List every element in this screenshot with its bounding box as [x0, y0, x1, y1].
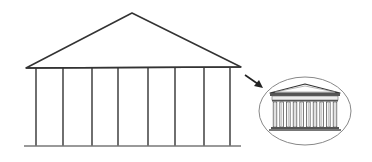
- temple-column: [273, 102, 277, 127]
- temple-column: [300, 102, 304, 127]
- temple-column: [327, 102, 331, 127]
- inset-detail: [259, 77, 351, 145]
- temple-column: [307, 102, 311, 127]
- temple-column: [313, 102, 317, 127]
- columns: [36, 68, 230, 146]
- temple-column: [320, 102, 324, 127]
- roof-base-line: [26, 67, 241, 68]
- temple-column: [333, 102, 337, 127]
- temple-diagram: [0, 0, 372, 162]
- pointer-arrow: [245, 75, 263, 88]
- diagram-canvas: [0, 0, 372, 162]
- roof-pediment: [26, 13, 241, 68]
- temple-column: [293, 102, 297, 127]
- temple-column: [280, 102, 284, 127]
- temple-column: [287, 102, 291, 127]
- large-building: [24, 13, 241, 146]
